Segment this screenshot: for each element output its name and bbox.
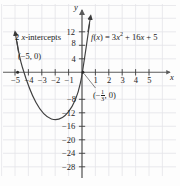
fraction-one-third: 13 — [101, 89, 105, 103]
x-tick-label-3: 3 — [120, 76, 124, 85]
x-tick-label-4: 4 — [134, 76, 138, 85]
coordinate-plane — [0, 0, 180, 186]
y-tick-label--24: −24 — [62, 149, 75, 158]
x-tick-label--4: −4 — [24, 76, 33, 85]
x-intercepts-note-tail: -intercepts — [25, 32, 61, 42]
point-label-left-intercept: (−5, 0) — [18, 52, 41, 61]
point-right-close: , 0) — [105, 90, 116, 100]
y-axis-label: y — [74, 3, 78, 12]
x-intercepts-note: 2 x-intercepts — [15, 33, 61, 42]
point-right-open: (− — [93, 90, 101, 100]
equation-constant: + 5 — [144, 32, 157, 42]
y-tick-label--8: −8 — [67, 95, 76, 104]
x-tick-label-1: 1 — [94, 76, 98, 85]
graph-figure: y x −5 −4 −3 −2 −1 1 2 3 4 5 12 8 4 −8 −… — [0, 0, 180, 186]
y-tick-label-12: 12 — [67, 28, 76, 37]
y-tick-label-8: 8 — [72, 39, 76, 48]
x-intercepts-note-count: 2 — [15, 32, 19, 42]
x-tick-label--5: −5 — [11, 76, 20, 85]
point-label-right-intercept: (−13, 0) — [93, 89, 116, 103]
x-intercept-point-right — [81, 71, 84, 74]
fraction-denominator: 3 — [101, 95, 105, 102]
x-tick-label--2: −2 — [51, 76, 60, 85]
x-tick-label--1: −1 — [65, 76, 74, 85]
y-tick-label--20: −20 — [62, 136, 75, 145]
x-axis-label: x — [170, 73, 174, 82]
x-intercept-point-left — [16, 71, 19, 74]
y-tick-label--12: −12 — [62, 109, 75, 118]
x-tick-label-5: 5 — [147, 76, 151, 85]
function-equation-label: f(x) = 3x2 + 16x + 5 — [91, 33, 158, 42]
y-tick-label--16: −16 — [62, 122, 75, 131]
y-tick-label--28: −28 — [62, 163, 75, 172]
y-tick-label-4: 4 — [72, 55, 76, 64]
equation-close-eq: ) = 3 — [100, 32, 116, 42]
equation-linear-coef: + 16 — [123, 32, 141, 42]
x-tick-label-2: 2 — [107, 76, 111, 85]
x-tick-label--3: −3 — [38, 76, 47, 85]
